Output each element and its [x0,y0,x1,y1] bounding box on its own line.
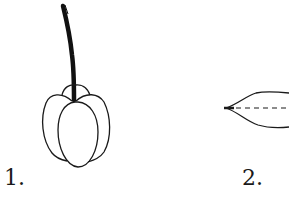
figure-2-label: 2. [242,167,263,189]
figure-2-outline [224,92,289,128]
figure-1-label: 1. [4,167,25,189]
